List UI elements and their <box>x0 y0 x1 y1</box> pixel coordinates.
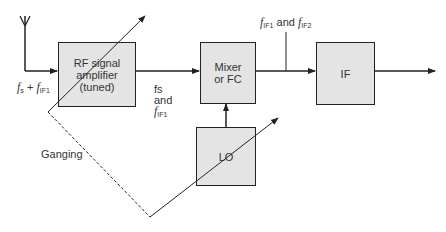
tuning-overlay <box>0 0 446 232</box>
ganging-label: Ganging <box>41 148 83 160</box>
rf-tuning-arrow <box>48 16 145 112</box>
rf-output-label: fs and fIF1 <box>154 84 172 120</box>
ganging-dashed-line <box>48 112 150 217</box>
input-frequency-label: fs + fIF1 <box>17 81 50 97</box>
lo-tuning-arrow <box>150 118 278 217</box>
mixer-output-label: fIF1 and fIF2 <box>260 16 311 32</box>
